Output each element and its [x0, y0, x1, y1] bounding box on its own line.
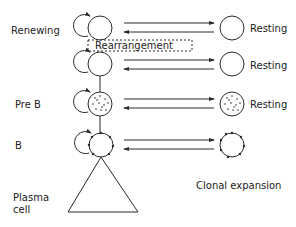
rearranged-cell-circle — [88, 52, 112, 76]
resting-cell-circle — [220, 16, 244, 40]
plasma-label-line1: Plasma — [13, 192, 49, 203]
renewing-cell-circle — [88, 16, 112, 40]
plasma-label-line2: cell — [13, 204, 30, 215]
resting-label: Resting — [250, 23, 287, 34]
resting-cell-circle — [220, 52, 244, 76]
stage-label-b: B — [15, 140, 22, 151]
resting-label: Resting — [250, 60, 287, 71]
stage-label-pre-b: Pre B — [15, 99, 41, 110]
self-renew-arrow-icon — [74, 15, 90, 37]
stage-label-renewing: Renewing — [11, 25, 60, 36]
self-renew-arrow-icon — [74, 91, 90, 113]
self-renew-arrow-icon — [74, 51, 90, 73]
clonal-expansion-triangle — [68, 157, 138, 212]
rearrangement-label: Rearrangement — [95, 40, 173, 51]
resting-label: Resting — [250, 99, 287, 110]
clonal-expansion-label: Clonal expansion — [196, 180, 281, 191]
self-renew-arrow-icon — [75, 132, 91, 154]
